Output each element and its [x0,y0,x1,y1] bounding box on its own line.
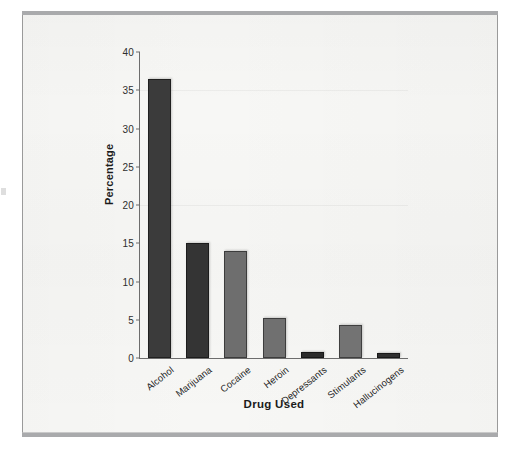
bar-heroin [263,318,286,358]
x-axis-title: Drug Used [140,398,408,410]
x-axis-line [139,358,408,359]
bar-hallucinogens [377,353,400,358]
bar-stimulants [339,325,362,358]
y-tick-label: 10 [122,276,134,287]
page-rule-bottom [22,433,498,437]
bar-depressants [301,352,324,358]
y-tick-label: 40 [122,47,134,58]
y-axis-title: Percentage [103,144,115,205]
bar-alcohol [148,79,171,358]
bar-series [140,52,408,358]
y-tick-label: 0 [128,353,134,364]
y-tick-label: 30 [122,123,134,134]
y-tick-label: 20 [122,200,134,211]
y-tick-label: 35 [122,85,134,96]
bar-cocaine [224,251,247,358]
bar-marijuana [186,243,209,358]
y-tick-label: 5 [128,314,134,325]
figure-page: 0510152025303540 AlcoholMarijuanaCocaine… [0,0,518,460]
scan-artifact-speck [1,188,6,195]
y-tick-label: 15 [122,238,134,249]
bar-chart-plot-area: 0510152025303540 AlcoholMarijuanaCocaine… [140,52,408,358]
y-tick-label: 25 [122,161,134,172]
